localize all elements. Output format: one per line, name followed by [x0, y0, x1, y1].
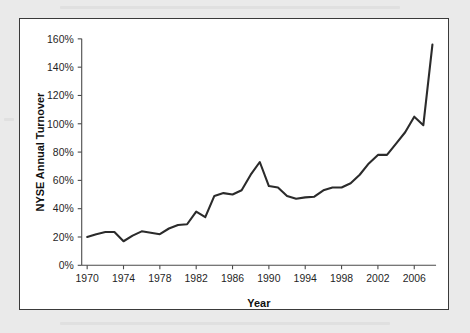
- x-tick-label: 1978: [148, 273, 171, 284]
- x-axis-title: Year: [247, 297, 271, 309]
- x-tick-label: 1970: [76, 273, 99, 284]
- x-tick-label: 2006: [403, 273, 426, 284]
- y-tick-label: 140%: [47, 62, 74, 73]
- nyse-annual-turnover-chart: 0%20%40%60%80%100%120%140%160% 197019741…: [20, 19, 448, 309]
- y-tick-label: 80%: [53, 147, 74, 158]
- x-axis-ticks: 1970197419781982198619901994199820022006: [76, 265, 427, 284]
- y-tick-label: 20%: [53, 232, 74, 243]
- y-axis-title: NYSE Annual Turnover: [34, 92, 46, 212]
- x-tick-label: 2002: [366, 273, 389, 284]
- ghost-text-line: [60, 6, 400, 9]
- y-tick-label: 40%: [53, 203, 74, 214]
- turnover-line-series: [87, 45, 432, 242]
- x-tick-label: 1994: [294, 273, 317, 284]
- y-tick-label: 160%: [47, 34, 74, 45]
- x-tick-label: 1998: [330, 273, 353, 284]
- chart-figure-frame: 0%20%40%60%80%100%120%140%160% 197019741…: [19, 18, 449, 310]
- x-tick-label: 1974: [112, 273, 135, 284]
- y-tick-label: 0%: [59, 260, 74, 271]
- ghost-text-line: [60, 322, 390, 325]
- ghost-text-line: [4, 118, 14, 121]
- x-tick-label: 1982: [185, 273, 208, 284]
- y-tick-label: 60%: [53, 175, 74, 186]
- y-tick-label: 100%: [47, 119, 74, 130]
- x-tick-label: 1990: [257, 273, 280, 284]
- y-tick-label: 120%: [47, 90, 74, 101]
- chart-canvas: 0%20%40%60%80%100%120%140%160% 197019741…: [20, 19, 448, 309]
- y-axis-ticks: 0%20%40%60%80%100%120%140%160%: [47, 34, 82, 271]
- x-tick-label: 1986: [221, 273, 244, 284]
